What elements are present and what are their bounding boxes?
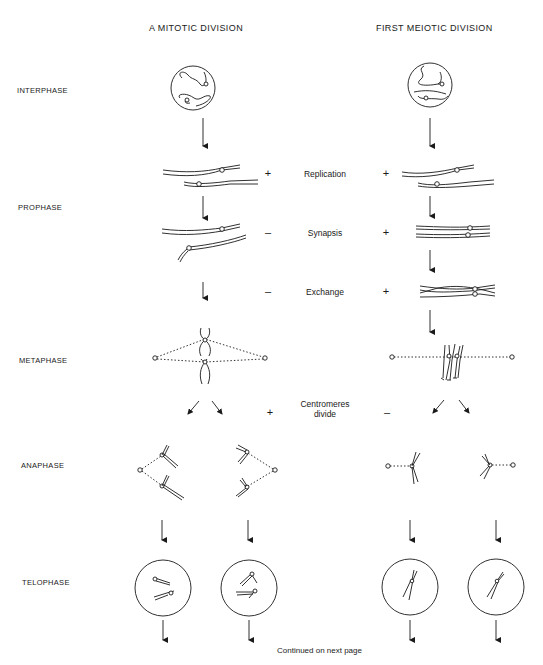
meiotic-telophase-cell-left <box>382 559 438 615</box>
meiotic-metaphase-spindle <box>390 344 514 380</box>
mitotic-replicated-chromosomes <box>163 165 258 187</box>
mitotic-prophase-chromosomes <box>162 224 246 262</box>
meiotic-synapsed-chromosomes <box>416 226 490 238</box>
meiotic-interphase-cell <box>408 63 452 107</box>
arrow-icon <box>459 400 469 413</box>
arrow-icon <box>212 401 222 414</box>
meiotic-replicated-chromosomes <box>402 165 494 188</box>
mitotic-metaphase-spindle <box>153 328 267 384</box>
mitotic-interphase-cell <box>171 66 215 110</box>
division-diagram <box>0 0 543 665</box>
mitotic-anaphase-right <box>236 445 277 497</box>
arrow-icon <box>433 400 444 413</box>
meiotic-anaphase-right <box>480 454 515 479</box>
mitotic-anaphase-left <box>138 445 184 500</box>
mitotic-telophase-cell-right <box>221 560 277 616</box>
mitotic-telophase-cell-left <box>135 560 191 616</box>
arrow-icon <box>188 401 199 414</box>
meiotic-exchange-chromosomes <box>420 285 495 297</box>
meiotic-telophase-cell-right <box>468 559 524 615</box>
meiotic-anaphase-left <box>386 452 420 484</box>
